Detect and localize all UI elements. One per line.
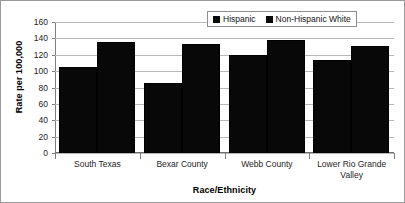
bar-non-hispanic-white[interactable]	[97, 42, 135, 153]
bar-group	[229, 22, 305, 153]
bar-group	[144, 22, 220, 153]
y-tick-mark	[52, 120, 55, 121]
x-tick-label-line: South Texas	[55, 159, 140, 170]
bar-chart-figure: Rate per 100,000 160140120100806040200 S…	[0, 0, 405, 203]
y-tick-mark	[52, 88, 55, 89]
bar-hispanic[interactable]	[59, 67, 97, 153]
bar-hispanic[interactable]	[144, 83, 182, 153]
y-tick-label: 0	[8, 148, 48, 158]
y-tick-label: 120	[8, 50, 48, 60]
y-tick-label: 80	[8, 83, 48, 93]
x-tick-label-line: Webb County	[225, 159, 310, 170]
bar-non-hispanic-white[interactable]	[182, 44, 220, 153]
x-tick-label: Lower Rio GrandeValley	[309, 159, 394, 181]
legend-label: Hispanic	[223, 14, 256, 24]
y-tick-label: 20	[8, 132, 48, 142]
y-tick-mark	[52, 104, 55, 105]
x-tick-label-line: Valley	[309, 170, 394, 181]
bar-hispanic[interactable]	[313, 60, 351, 153]
bar-non-hispanic-white[interactable]	[351, 46, 389, 153]
legend-entry[interactable]: Non-Hispanic White	[266, 14, 351, 24]
legend-swatch-icon	[266, 16, 273, 23]
y-tick-mark	[52, 71, 55, 72]
y-tick-mark	[52, 38, 55, 39]
legend-swatch-icon	[213, 16, 220, 23]
x-tick-label: Bexar County	[140, 159, 225, 170]
y-tick-mark	[52, 22, 55, 23]
x-tick-label-line: Lower Rio Grande	[309, 159, 394, 170]
x-tick-label: South Texas	[55, 159, 140, 170]
legend-label: Non-Hispanic White	[276, 14, 351, 24]
bar-non-hispanic-white[interactable]	[267, 40, 305, 153]
legend-entry[interactable]: Hispanic	[213, 14, 256, 24]
bar-hispanic[interactable]	[229, 55, 267, 153]
x-tick-label-line: Bexar County	[140, 159, 225, 170]
y-tick-mark	[52, 55, 55, 56]
x-axis-tick-labels: South TexasBexar CountyWebb CountyLower …	[55, 159, 394, 183]
plot-area	[55, 22, 394, 153]
x-tick-label: Webb County	[225, 159, 310, 170]
y-tick-label: 40	[8, 115, 48, 125]
bar-group	[59, 22, 135, 153]
y-tick-label: 160	[8, 17, 48, 27]
y-tick-mark	[52, 137, 55, 138]
chart-legend: HispanicNon-Hispanic White	[207, 11, 357, 27]
bar-group	[313, 22, 389, 153]
x-axis-title: Race/Ethnicity	[55, 185, 394, 195]
y-tick-label: 100	[8, 66, 48, 76]
y-tick-label: 60	[8, 99, 48, 109]
y-tick-label: 140	[8, 33, 48, 43]
group-separator-tick	[394, 153, 395, 159]
